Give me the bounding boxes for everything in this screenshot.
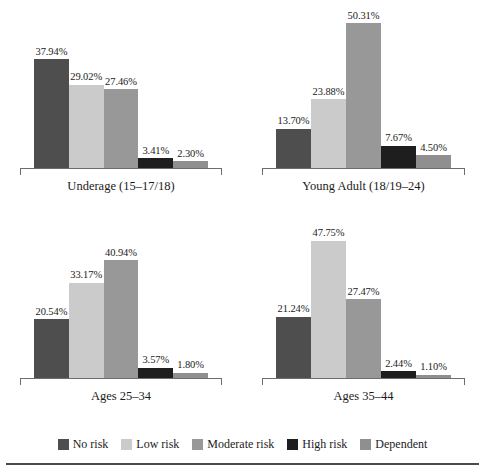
bar-column: 23.88% (311, 10, 346, 168)
bar-value-label: 4.50% (420, 143, 447, 154)
bar-column: 27.46% (104, 10, 139, 168)
bar-group: 13.70%23.88%50.31%7.67%4.50% (276, 10, 451, 168)
bar (34, 59, 69, 168)
legend-swatch (360, 439, 371, 450)
bar (138, 158, 173, 168)
bar-column: 27.47% (346, 220, 381, 378)
x-axis (20, 168, 222, 169)
bar (173, 161, 208, 168)
chart-panel: 37.94%29.02%27.46%3.41%2.30%Underage (15… (0, 0, 242, 210)
bar-column: 47.75% (311, 220, 346, 378)
bar (69, 85, 104, 168)
bar-column: 40.94% (104, 220, 139, 378)
legend-item: Moderate risk (192, 437, 274, 452)
axis-tick (221, 168, 222, 175)
bar (381, 371, 416, 378)
bar-column: 37.94% (34, 10, 69, 168)
bar-column: 1.80% (173, 220, 208, 378)
bar (104, 260, 139, 378)
bar (104, 89, 139, 168)
panel-caption: Ages 25–34 (0, 389, 242, 404)
bar-value-label: 13.70% (278, 116, 310, 127)
bar (34, 319, 69, 378)
bar-value-label: 2.30% (177, 149, 204, 160)
legend-item: No risk (58, 437, 109, 452)
bar-column: 21.24% (276, 220, 311, 378)
bar-column: 7.67% (381, 10, 416, 168)
bar-column: 29.02% (69, 10, 104, 168)
bar-value-label: 29.02% (70, 72, 102, 83)
legend-label: Moderate risk (207, 437, 274, 452)
bar-column: 2.30% (173, 10, 208, 168)
bar (69, 283, 104, 378)
bar (138, 368, 173, 378)
legend-label: No risk (73, 437, 109, 452)
bar-value-label: 3.41% (142, 146, 169, 157)
panel-caption: Young Adult (18/19–24) (242, 179, 485, 194)
bar (416, 155, 451, 168)
plot-area: 20.54%33.17%40.94%3.57%1.80% (20, 220, 222, 378)
chart-legend: No riskLow riskModerate riskHigh riskDep… (0, 437, 485, 452)
x-axis (262, 378, 465, 379)
panel-grid: 37.94%29.02%27.46%3.41%2.30%Underage (15… (0, 0, 485, 420)
bar (276, 129, 311, 168)
axis-tick (20, 378, 21, 385)
bar-value-label: 1.10% (420, 362, 447, 373)
axis-tick (464, 168, 465, 175)
bar-column: 50.31% (346, 10, 381, 168)
legend-label: High risk (302, 437, 347, 452)
bar-column: 3.41% (138, 10, 173, 168)
axis-tick (262, 168, 263, 175)
bar-column: 20.54% (34, 220, 69, 378)
panel-caption: Underage (15–17/18) (0, 179, 242, 194)
legend-item: Dependent (360, 437, 427, 452)
axis-tick (20, 168, 21, 175)
chart-panel: 21.24%47.75%27.47%2.44%1.10%Ages 35–44 (242, 210, 485, 420)
axis-tick (464, 378, 465, 385)
bar-value-label: 27.46% (105, 77, 137, 88)
bar-value-label: 50.31% (348, 11, 380, 22)
bar-column: 2.44% (381, 220, 416, 378)
plot-area: 13.70%23.88%50.31%7.67%4.50% (262, 10, 465, 168)
bar-value-label: 33.17% (70, 270, 102, 281)
legend-item: High risk (287, 437, 347, 452)
bar-value-label: 2.44% (385, 359, 412, 370)
bar-value-label: 40.94% (105, 248, 137, 259)
bar-column: 33.17% (69, 220, 104, 378)
chart-panel: 20.54%33.17%40.94%3.57%1.80%Ages 25–34 (0, 210, 242, 420)
bar (346, 23, 381, 168)
bar-column: 3.57% (138, 220, 173, 378)
chart-panel: 13.70%23.88%50.31%7.67%4.50%Young Adult … (242, 0, 485, 210)
bar-column: 13.70% (276, 10, 311, 168)
legend-swatch (121, 439, 132, 450)
bar-value-label: 3.57% (142, 355, 169, 366)
legend-label: Dependent (375, 437, 427, 452)
axis-tick (262, 378, 263, 385)
legend-swatch (287, 439, 298, 450)
bar-value-label: 20.54% (36, 307, 68, 318)
bar-value-label: 1.80% (177, 360, 204, 371)
bar (311, 99, 346, 168)
panel-caption: Ages 35–44 (242, 389, 485, 404)
footer-rule (6, 463, 479, 465)
bar (311, 241, 346, 378)
bar (381, 146, 416, 168)
bar-value-label: 37.94% (36, 47, 68, 58)
bar-group: 20.54%33.17%40.94%3.57%1.80% (34, 220, 208, 378)
plot-area: 21.24%47.75%27.47%2.44%1.10% (262, 220, 465, 378)
legend-swatch (58, 439, 69, 450)
bar-value-label: 21.24% (278, 304, 310, 315)
bar-group: 21.24%47.75%27.47%2.44%1.10% (276, 220, 451, 378)
axis-tick (221, 378, 222, 385)
bar-value-label: 23.88% (313, 87, 345, 98)
legend-item: Low risk (121, 437, 179, 452)
bar (276, 317, 311, 378)
bar-group: 37.94%29.02%27.46%3.41%2.30% (34, 10, 208, 168)
bar (346, 299, 381, 378)
bar-value-label: 27.47% (348, 287, 380, 298)
legend-swatch (192, 439, 203, 450)
plot-area: 37.94%29.02%27.46%3.41%2.30% (20, 10, 222, 168)
figure: 37.94%29.02%27.46%3.41%2.30%Underage (15… (0, 0, 485, 472)
bar-column: 4.50% (416, 10, 451, 168)
x-axis (20, 378, 222, 379)
